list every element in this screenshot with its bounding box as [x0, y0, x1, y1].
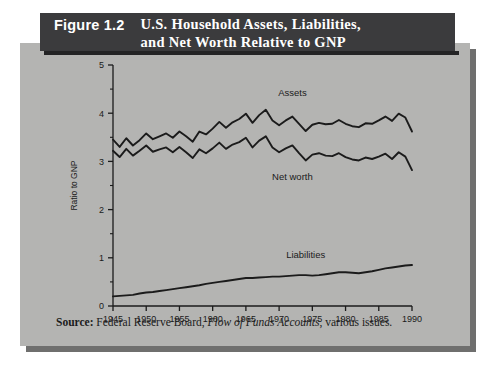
figure-root: 0123451945195019551960196519701975198019… — [0, 0, 497, 382]
series-line-net-worth — [113, 136, 412, 170]
source-note: Source: Federal Reserve Board, Flow of F… — [20, 316, 470, 328]
series-line-liabilities — [113, 265, 412, 296]
y-tick-label: 3 — [99, 157, 104, 167]
figure-number: Figure 1.2 — [54, 16, 125, 35]
y-tick-label: 4 — [99, 109, 104, 119]
plot-area: 0123451945195019551960196519701975198019… — [20, 43, 470, 346]
panel-shadow-bottom — [26, 346, 476, 352]
series-label-assets: Assets — [278, 87, 307, 98]
source-prefix: Source: — [56, 316, 93, 328]
figure-title-line1: U.S. Household Assets, Liabilities, — [141, 16, 361, 32]
y-tick-label: 1 — [99, 253, 104, 263]
series-label-net-worth: Net worth — [272, 171, 313, 182]
series-label-liabilities: Liabilities — [286, 249, 325, 260]
page-title: U.S. Household Assets, Liabilities, and … — [141, 16, 361, 51]
figure-title-line2: and Net Worth Relative to GNP — [141, 34, 361, 52]
source-publication: Flow of Funds Accounts — [208, 316, 320, 328]
y-tick-label: 5 — [99, 60, 104, 70]
source-org: Federal Reserve Board, — [96, 316, 204, 328]
y-axis-title: Ratio to GNP — [69, 160, 79, 210]
y-tick-label: 0 — [99, 301, 104, 311]
figure-panel: 0123451945195019551960196519701975198019… — [20, 43, 470, 346]
series-line-assets — [113, 110, 412, 147]
banner-shadow — [44, 51, 459, 55]
y-tick-label: 2 — [99, 205, 104, 215]
figure-title-banner: Figure 1.2 U.S. Household Assets, Liabil… — [40, 13, 455, 51]
panel-shadow-right — [470, 49, 476, 352]
source-suffix: , various issues. — [319, 316, 392, 328]
chart-svg: 0123451945195019551960196519701975198019… — [20, 43, 470, 346]
